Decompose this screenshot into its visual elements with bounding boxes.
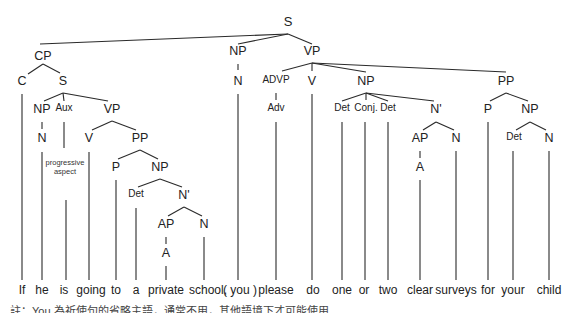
sentence-word: going bbox=[76, 284, 105, 296]
sentence-word: If bbox=[19, 284, 26, 296]
sentence-word: your bbox=[501, 284, 524, 296]
tree-node-pp-to: PP bbox=[132, 132, 149, 145]
tree-node-aux: Aux bbox=[55, 103, 72, 113]
sentence-word: or bbox=[359, 284, 370, 296]
tree-node-n-he: N bbox=[37, 132, 46, 145]
tree-node-ap-obj: AP bbox=[412, 132, 429, 145]
tree-node-v-do: V bbox=[308, 75, 316, 88]
syntax-tree-branches bbox=[0, 0, 575, 313]
tree-node-det1: Det bbox=[334, 103, 350, 113]
sentence-word: school, bbox=[189, 284, 227, 296]
tree-node-det-a: Det bbox=[128, 189, 144, 199]
footnote-caption: 註：You 為祈使句的省略主語，通常不用，其他語境下才可能使用 bbox=[10, 302, 329, 313]
tree-node-det-your: Det bbox=[506, 132, 522, 142]
sentence-word: private bbox=[148, 284, 184, 296]
tree-node-n-you: N bbox=[233, 75, 242, 88]
tree-node-det2: Det bbox=[380, 103, 396, 113]
tree-node-conj: Conj. bbox=[354, 103, 377, 113]
tree-node-n-child: N bbox=[544, 132, 553, 145]
sentence-word: a bbox=[133, 284, 140, 296]
tree-node-p-to: P bbox=[112, 161, 120, 174]
tree-node-cp: CP bbox=[34, 50, 51, 63]
tree-node-v-going: V bbox=[85, 132, 93, 145]
sentence-word: is bbox=[60, 284, 69, 296]
tree-node-np-school: NP bbox=[151, 161, 168, 174]
sentence-word: please bbox=[258, 284, 293, 296]
annotation-line-2: aspect bbox=[46, 168, 85, 177]
tree-node-ap-school: AP bbox=[158, 218, 175, 231]
tree-node-p-for: P bbox=[484, 103, 492, 116]
tree-node-np-obj: NP bbox=[357, 75, 374, 88]
sentence-word: to bbox=[111, 284, 121, 296]
sentence-word: one bbox=[332, 284, 352, 296]
sentence-word: two bbox=[379, 284, 398, 296]
tree-node-np-he: NP bbox=[33, 103, 50, 116]
tree-node-vp-main: VP bbox=[304, 45, 321, 58]
tree-node-np-you: NP bbox=[229, 45, 246, 58]
tree-node-nbar-obj: N' bbox=[430, 103, 441, 116]
sentence-word: for bbox=[481, 284, 495, 296]
tree-node-n-surveys: N bbox=[451, 132, 460, 145]
tree-node-s-root: S bbox=[284, 15, 293, 28]
sentence-word: child bbox=[537, 284, 562, 296]
tree-node-vp-sub: VP bbox=[104, 103, 121, 116]
tree-node-nbar-school: N' bbox=[178, 189, 189, 202]
tree-node-pp-for: PP bbox=[498, 75, 515, 88]
sentence-word: clear bbox=[407, 284, 433, 296]
sentence-word: do bbox=[306, 284, 319, 296]
tree-node-n-school: N bbox=[199, 218, 208, 231]
tree-node-a-clear: A bbox=[416, 161, 424, 174]
tree-node-adv: Adv bbox=[267, 103, 284, 113]
tree-node-s-sub: S bbox=[59, 75, 67, 88]
sentence-word: surveys bbox=[435, 284, 476, 296]
tree-node-np-child: NP bbox=[521, 103, 538, 116]
tree-node-advp: ADVP bbox=[262, 75, 289, 85]
sentence-word: he bbox=[35, 284, 48, 296]
progressive-aspect-annotation: progressive aspect bbox=[46, 159, 85, 176]
sentence-word: ( you ) bbox=[223, 284, 257, 296]
tree-node-c: C bbox=[17, 75, 26, 88]
tree-node-a-private: A bbox=[162, 247, 170, 260]
